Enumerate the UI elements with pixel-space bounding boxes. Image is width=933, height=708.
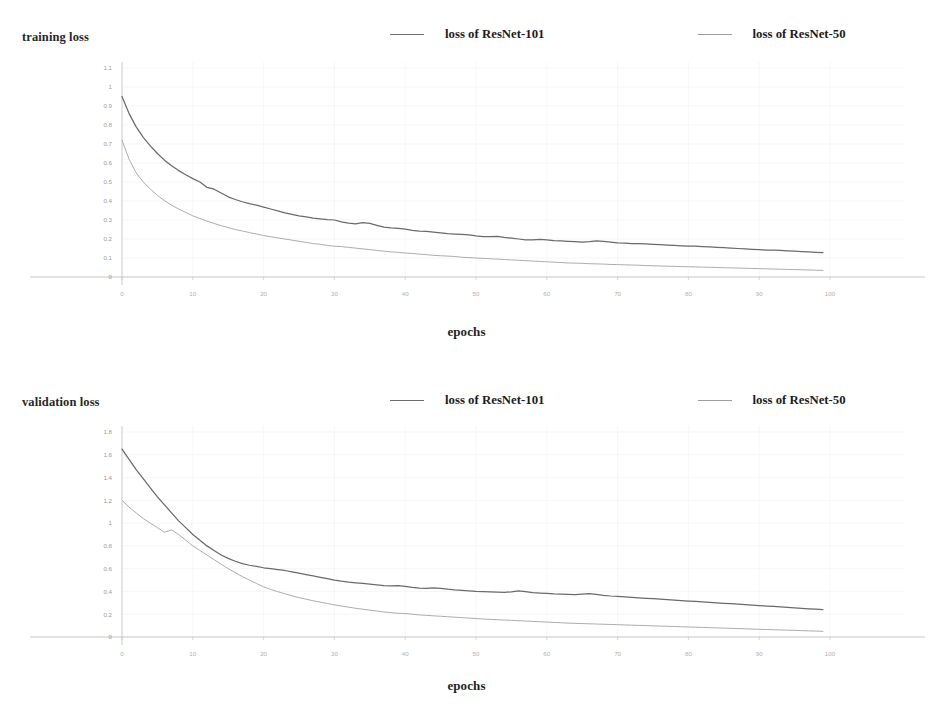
validation-loss-chart: validation loss loss of ResNet-101 loss … bbox=[0, 360, 933, 708]
svg-text:0.7: 0.7 bbox=[103, 140, 112, 147]
svg-text:10: 10 bbox=[189, 650, 196, 657]
svg-text:50: 50 bbox=[473, 290, 480, 297]
svg-text:0: 0 bbox=[109, 633, 113, 640]
svg-text:0.4: 0.4 bbox=[103, 588, 112, 595]
training-loss-chart: training loss loss of ResNet-101 loss of… bbox=[0, 0, 933, 360]
svg-text:30: 30 bbox=[331, 290, 338, 297]
svg-text:1.2: 1.2 bbox=[103, 497, 112, 504]
svg-text:0.4: 0.4 bbox=[103, 197, 112, 204]
svg-text:0.1: 0.1 bbox=[103, 254, 112, 261]
svg-text:100: 100 bbox=[825, 650, 836, 657]
svg-text:90: 90 bbox=[756, 650, 763, 657]
svg-text:1.8: 1.8 bbox=[103, 428, 112, 435]
svg-text:0.6: 0.6 bbox=[103, 159, 112, 166]
x-axis-title: epochs bbox=[0, 678, 933, 694]
svg-text:0.8: 0.8 bbox=[103, 121, 112, 128]
figure-page: { "figure": { "background": "#ffffff", "… bbox=[0, 0, 933, 708]
svg-text:30: 30 bbox=[331, 650, 338, 657]
svg-text:0.5: 0.5 bbox=[103, 178, 112, 185]
svg-text:20: 20 bbox=[260, 290, 267, 297]
svg-text:0: 0 bbox=[120, 290, 124, 297]
svg-text:70: 70 bbox=[614, 290, 621, 297]
svg-text:1.6: 1.6 bbox=[103, 451, 112, 458]
x-axis-title: epochs bbox=[0, 324, 933, 340]
svg-text:50: 50 bbox=[473, 650, 480, 657]
svg-text:0.6: 0.6 bbox=[103, 565, 112, 572]
svg-text:100: 100 bbox=[825, 290, 836, 297]
svg-text:60: 60 bbox=[543, 650, 550, 657]
plot-svg: 1.110.90.80.70.60.50.40.30.20.1001020304… bbox=[0, 0, 933, 320]
svg-text:1: 1 bbox=[109, 519, 113, 526]
svg-text:20: 20 bbox=[260, 650, 267, 657]
svg-text:80: 80 bbox=[685, 650, 692, 657]
svg-text:0.2: 0.2 bbox=[103, 235, 112, 242]
plot-area: 1.81.61.41.210.80.60.40.2001020304050607… bbox=[0, 360, 933, 678]
svg-text:1.4: 1.4 bbox=[103, 474, 112, 481]
svg-text:90: 90 bbox=[756, 290, 763, 297]
svg-text:0.9: 0.9 bbox=[103, 102, 112, 109]
svg-text:0.2: 0.2 bbox=[103, 611, 112, 618]
svg-text:40: 40 bbox=[402, 650, 409, 657]
svg-text:40: 40 bbox=[402, 290, 409, 297]
plot-area: 1.110.90.80.70.60.50.40.30.20.1001020304… bbox=[0, 0, 933, 320]
svg-text:1.1: 1.1 bbox=[103, 64, 112, 71]
svg-text:0.8: 0.8 bbox=[103, 542, 112, 549]
svg-text:80: 80 bbox=[685, 290, 692, 297]
plot-svg: 1.81.61.41.210.80.60.40.2001020304050607… bbox=[0, 360, 933, 678]
svg-text:10: 10 bbox=[189, 290, 196, 297]
svg-text:1: 1 bbox=[109, 83, 113, 90]
svg-text:60: 60 bbox=[543, 290, 550, 297]
svg-text:70: 70 bbox=[614, 650, 621, 657]
svg-text:0.3: 0.3 bbox=[103, 216, 112, 223]
svg-text:0: 0 bbox=[109, 273, 113, 280]
svg-text:0: 0 bbox=[120, 650, 124, 657]
